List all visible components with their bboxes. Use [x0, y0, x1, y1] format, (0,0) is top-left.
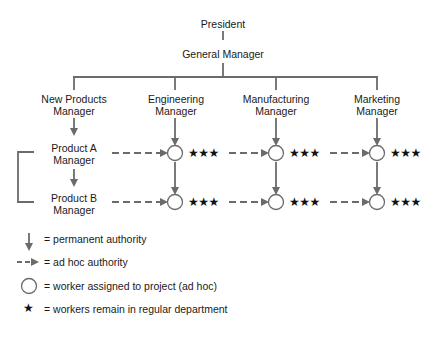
star-icon: ★★★	[289, 196, 320, 208]
star-icon: ★★★	[390, 196, 421, 208]
star-icon: ★★★	[390, 147, 421, 159]
dept-new-products: New Products Manager	[41, 93, 106, 117]
star-icon: ★★★	[188, 196, 219, 208]
dept-engineering: Engineering Manager	[148, 93, 204, 117]
star-icon: ★★★	[188, 147, 219, 159]
worker-circle	[168, 146, 183, 161]
star-icon: ★★★	[289, 147, 320, 159]
worker-circle	[269, 146, 284, 161]
worker-circle	[269, 195, 284, 210]
legend-ad-hoc-authority: = ad hoc authority	[44, 256, 128, 268]
dept-marketing: Marketing Manager	[354, 93, 400, 117]
general-manager-label: General Manager	[182, 48, 264, 60]
legend-worker-assigned: = worker assigned to project (ad hoc)	[44, 280, 217, 292]
legend-workers-remain: = workers remain in regular department	[44, 303, 228, 315]
legend-circle-icon	[22, 279, 37, 294]
legend-permanent-authority: = permanent authority	[44, 233, 146, 245]
product-a-manager: Product A Manager	[51, 142, 97, 166]
worker-circle	[370, 195, 385, 210]
dept-manufacturing: Manufacturing Manager	[243, 93, 310, 117]
worker-circle	[370, 146, 385, 161]
worker-circle	[168, 195, 183, 210]
product-b-manager: Product B Manager	[51, 192, 97, 216]
president-label: President	[201, 18, 245, 30]
legend-star-icon: ★	[23, 302, 34, 314]
product-bracket	[18, 152, 34, 202]
